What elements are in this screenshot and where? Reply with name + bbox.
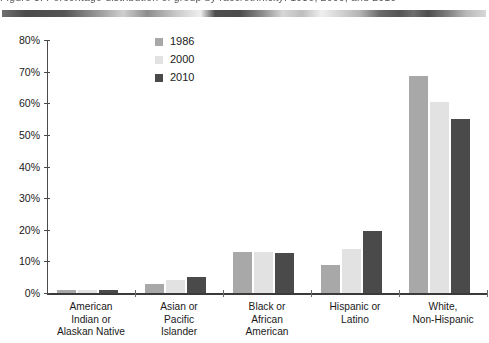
bar-1986-3 xyxy=(321,265,340,293)
category-label-line: Indian or xyxy=(47,314,135,327)
bar-2000-2 xyxy=(254,252,273,293)
y-tick-mark xyxy=(44,167,50,168)
scanned-header-strip: Figure 3. Percentage distribution of gro… xyxy=(0,0,489,22)
bar-2000-3 xyxy=(342,249,361,293)
category-label-line: Hispanic or xyxy=(311,301,399,314)
category-label: AmericanIndian orAlaskan Native xyxy=(47,301,135,339)
category-label: Black orAfricanAmerican xyxy=(223,301,311,339)
scan-smudge-band xyxy=(2,10,486,17)
y-tick-label: 70% xyxy=(6,66,40,78)
category-label-line: American xyxy=(223,326,311,339)
grouped-bar-chart: 0%10%20%30%40%50%60%70%80% AmericanIndia… xyxy=(0,22,489,343)
category-label-line: Pacific xyxy=(135,314,223,327)
y-tick-label: 0% xyxy=(6,287,40,299)
y-tick-mark xyxy=(44,230,50,231)
category-label-line: American xyxy=(47,301,135,314)
category-label: Hispanic orLatino xyxy=(311,301,399,326)
x-axis-line xyxy=(47,293,487,295)
cut-off-figure-caption: Figure 3. Percentage distribution of gro… xyxy=(0,0,489,5)
y-tick-label: 80% xyxy=(6,34,40,46)
bar-2010-2 xyxy=(275,253,294,293)
y-tick-label: 10% xyxy=(6,255,40,267)
category-label-line: Asian or xyxy=(135,301,223,314)
category-label-line: Islander xyxy=(135,326,223,339)
x-tick-mark xyxy=(223,290,224,297)
y-tick-label: 50% xyxy=(6,129,40,141)
x-tick-mark xyxy=(311,290,312,297)
bar-2010-0 xyxy=(99,290,118,293)
legend-swatch-2000 xyxy=(155,56,163,64)
category-label-line: Alaskan Native xyxy=(47,326,135,339)
bar-2010-4 xyxy=(451,119,470,293)
y-tick-label: 60% xyxy=(6,97,40,109)
y-tick-mark xyxy=(44,40,50,41)
category-label: Asian orPacificIslander xyxy=(135,301,223,339)
bar-1986-4 xyxy=(409,76,428,293)
bar-2010-3 xyxy=(363,231,382,293)
bar-2000-4 xyxy=(430,102,449,293)
x-tick-mark xyxy=(135,290,136,297)
bar-1986-2 xyxy=(233,252,252,293)
category-label-line: African xyxy=(223,314,311,327)
category-label: White,Non-Hispanic xyxy=(399,301,487,326)
bar-2010-1 xyxy=(187,277,206,293)
bar-2000-1 xyxy=(166,280,185,293)
y-tick-mark xyxy=(44,103,50,104)
y-tick-mark xyxy=(44,72,50,73)
bar-2000-0 xyxy=(78,290,97,293)
category-label-line: Black or xyxy=(223,301,311,314)
legend-label-2000: 2000 xyxy=(170,52,194,67)
x-tick-mark xyxy=(399,290,400,297)
y-tick-label: 40% xyxy=(6,161,40,173)
y-tick-mark xyxy=(44,293,50,294)
y-tick-label: 30% xyxy=(6,192,40,204)
y-tick-mark xyxy=(44,261,50,262)
legend-label-2010: 2010 xyxy=(170,70,194,85)
bar-1986-0 xyxy=(57,290,76,293)
category-label-line: Non-Hispanic xyxy=(399,314,487,327)
y-tick-label: 20% xyxy=(6,224,40,236)
legend-swatch-1986 xyxy=(155,38,163,46)
legend-swatch-2010 xyxy=(155,74,163,82)
category-label-line: White, xyxy=(399,301,487,314)
legend-label-1986: 1986 xyxy=(170,34,194,49)
bar-1986-1 xyxy=(145,284,164,293)
y-tick-mark xyxy=(44,198,50,199)
y-tick-mark xyxy=(44,135,50,136)
x-tick-mark xyxy=(487,290,488,297)
category-label-line: Latino xyxy=(311,314,399,327)
